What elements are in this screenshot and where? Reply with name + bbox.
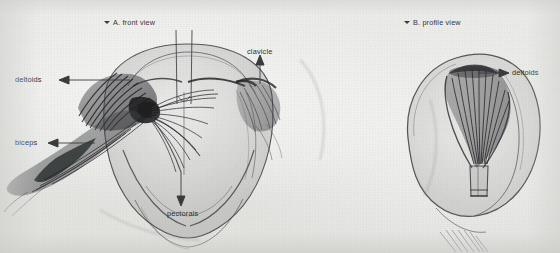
profile-view-figure: [407, 54, 540, 252]
triangle-down-icon: [404, 21, 410, 24]
view-caption-b-label: B. profile view: [413, 19, 461, 26]
label-deltoids-right: deltoids: [512, 69, 539, 76]
label-biceps: biceps: [15, 139, 37, 146]
triangle-down-icon: [104, 21, 110, 24]
anatomy-artwork: [0, 0, 560, 253]
label-clavicle: clavicle: [247, 48, 272, 55]
view-caption-a-label: A. front view: [113, 19, 155, 26]
profile-arm-cylinder: [470, 166, 488, 196]
front-view-figure: [4, 30, 282, 249]
label-deltoids-left: deltoids: [15, 76, 42, 83]
profile-bottom-hatching: [440, 230, 488, 252]
view-caption-a: A. front view: [104, 19, 155, 26]
label-pectorals: pectorals: [167, 210, 198, 217]
illustration-canvas: A. front view B. profile view deltoids b…: [0, 0, 560, 253]
view-caption-b: B. profile view: [404, 19, 461, 26]
